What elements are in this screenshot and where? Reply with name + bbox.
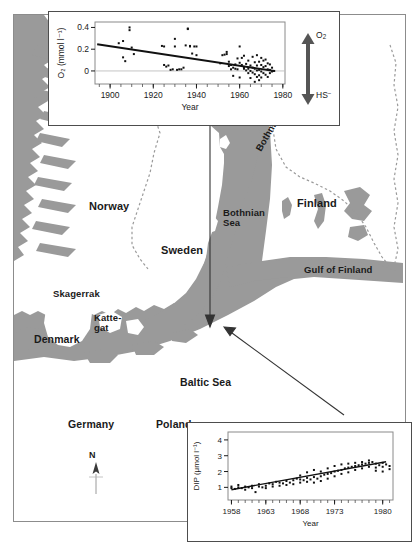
map-label-norway: Norway xyxy=(89,201,129,213)
x-tick-label: 1963 xyxy=(257,507,275,516)
map-label-skagerrak: Skagerrak xyxy=(53,289,100,299)
map-label-bothnian-sea: Bothnian Sea xyxy=(223,208,265,229)
map-label-baltic-sea: Baltic Sea xyxy=(180,377,231,388)
oxygen-chart-panel: 1900192019401960198000.20.4YearO₂ (mmol … xyxy=(48,11,340,126)
y-tick-label: 3 xyxy=(218,452,223,461)
map-label-finland: Finland xyxy=(297,198,337,210)
y-tick-label: 1 xyxy=(218,483,223,492)
x-tick-label: 1973 xyxy=(326,507,344,516)
x-axis-title: Year xyxy=(302,519,319,528)
legend-sulfide-label: HS− xyxy=(316,90,331,100)
x-tick-label: 1940 xyxy=(187,90,206,100)
map-label-denmark: Denmark xyxy=(34,334,80,345)
x-tick-label: 1960 xyxy=(230,90,249,100)
x-axis-title: Year xyxy=(181,102,198,112)
dip-chart-graphic: 195819631968197319801234YearDIP (μmol l⁻… xyxy=(188,423,409,539)
plot-area xyxy=(95,22,285,84)
compass-rose: N xyxy=(87,452,107,492)
y-tick-label: 2 xyxy=(218,468,223,477)
y-tick-label: 0.2 xyxy=(77,44,89,54)
map-label-gulf-of-finland: Gulf of Finland xyxy=(304,265,373,275)
legend-oxygen-label: O2 xyxy=(316,30,326,40)
map-label-sweden: Sweden xyxy=(161,245,203,257)
y-tick-label: 4 xyxy=(218,436,223,445)
y-axis-title: O₂ (mmol l⁻¹) xyxy=(56,27,66,78)
x-tick-label: 1968 xyxy=(291,507,309,516)
x-tick-label: 1900 xyxy=(101,90,120,100)
x-tick-label: 1980 xyxy=(273,90,292,100)
compass-north-label: N xyxy=(89,450,96,460)
x-tick-label: 1980 xyxy=(374,507,392,516)
oxygen-chart-graphic: 1900192019401960198000.20.4YearO₂ (mmol … xyxy=(49,12,337,123)
x-tick-label: 1920 xyxy=(144,90,163,100)
dip-chart-panel: 195819631968197319801234YearDIP (μmol l⁻… xyxy=(187,422,412,542)
figure-root: Norway Sweden Finland Bothnian Sea Bothn… xyxy=(0,0,417,551)
redox-legend-arrow: O2 HS− xyxy=(299,32,333,106)
y-axis-title: DIP (μmol l⁻¹) xyxy=(192,441,201,490)
map-label-kattegat: Katte- gat xyxy=(94,313,122,334)
map-label-germany: Germany xyxy=(68,419,114,430)
y-tick-label: 0.4 xyxy=(77,22,89,32)
y-tick-label: 0 xyxy=(84,66,89,76)
x-tick-label: 1958 xyxy=(223,507,241,516)
